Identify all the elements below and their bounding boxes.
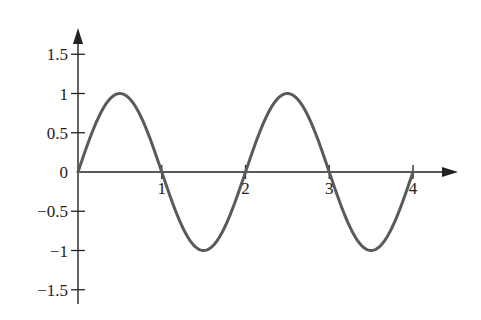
y-tick-label: 0.5 <box>47 124 68 143</box>
x-tick-label: 4 <box>409 179 418 198</box>
y-tick-label: 0 <box>60 163 69 182</box>
x-tick-label: 2 <box>241 179 250 198</box>
x-axis-arrow-icon <box>442 167 458 177</box>
y-axis-arrow-icon <box>73 28 83 44</box>
y-tick-label: −0.5 <box>37 202 68 221</box>
axes <box>73 28 458 304</box>
x-axis-tick-labels: 1234 <box>158 179 418 198</box>
y-tick-label: −1 <box>50 242 68 261</box>
x-tick-label: 1 <box>158 179 167 198</box>
y-tick-label: 1 <box>60 85 69 104</box>
y-tick-label: −1.5 <box>37 281 68 300</box>
sine-chart: 1.510.50−0.5−1−1.5 1234 <box>0 0 481 320</box>
x-tick-label: 3 <box>325 179 334 198</box>
y-tick-label: 1.5 <box>47 45 68 64</box>
